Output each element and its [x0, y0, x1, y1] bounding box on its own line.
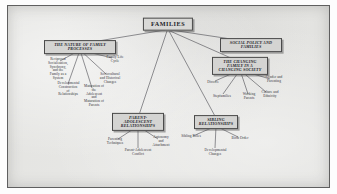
node-leaf-developmental-construction[interactable]: Developmental Construction of Relationsh… [58, 82, 79, 97]
node-leaf-divorce[interactable]: Divorce [203, 81, 224, 85]
node-leaf-developmental-changes[interactable]: Developmental Changes [205, 149, 226, 157]
edge-nature-l2 [68, 50, 80, 84]
node-root-families[interactable]: FAMILIES [143, 18, 193, 31]
edge-root-sibling [169, 31, 216, 118]
page-wrap: FAMILIES THE NATURE OF FAMILY PROCESSES … [0, 0, 337, 194]
node-leaf-family-life-cycle[interactable]: Family Life Cycle [105, 56, 126, 64]
node-leaf-parenting-techniques[interactable]: Parenting Techniques [105, 138, 126, 146]
edge-root-parent [138, 31, 167, 118]
node-branch-sibling-relationships[interactable]: SIBLING RELATIONSHIPS [194, 115, 238, 129]
node-leaf-birth-order[interactable]: Birth Order [230, 137, 251, 141]
node-leaf-sibling-roles[interactable]: Sibling Roles [181, 135, 202, 139]
node-leaf-gender-and-parenting[interactable]: Gender and Parenting [264, 76, 285, 84]
node-leaf-parent-adolescent-conflict[interactable]: Parent-Adolescent Conflict [125, 149, 152, 157]
node-leaf-autonomy-and-attachment[interactable]: Autonomy and Attachment [151, 136, 172, 147]
node-branch-changing-family-changing-society[interactable]: THE CHANGING FAMILY IN A CHANGING SOCIET… [212, 57, 268, 75]
edge-sibling-l15 [215, 126, 216, 148]
node-leaf-sociocultural-historical-changes[interactable]: Sociocultural and Historical Changes [100, 73, 121, 84]
node-leaf-reciprocal-socialization[interactable]: Reciprocal Socialization, Synchrony, and… [48, 58, 69, 81]
node-leaf-culture-and-ethnicity[interactable]: Culture and Ethnicity [260, 91, 281, 99]
node-branch-parent-adolescent-relationships[interactable]: PARENT-ADOLESCENT RELATIONSHIPS [112, 113, 164, 131]
node-branch-social-policy-and-families[interactable]: SOCIAL POLICY AND FAMILIES [220, 38, 282, 52]
connector-lines [8, 6, 330, 188]
node-branch-nature-of-family-processes[interactable]: THE NATURE OF FAMILY PROCESSES [44, 40, 116, 54]
node-leaf-maturation-adolescent-parents[interactable]: Maturation of the Adolescent and Maturat… [84, 85, 105, 108]
node-leaf-stepfamilies[interactable]: Stepfamilies [212, 95, 233, 99]
node-leaf-working-parents[interactable]: Working Parents [239, 93, 260, 101]
concept-map-frame: FAMILIES THE NATURE OF FAMILY PROCESSES … [7, 5, 330, 188]
